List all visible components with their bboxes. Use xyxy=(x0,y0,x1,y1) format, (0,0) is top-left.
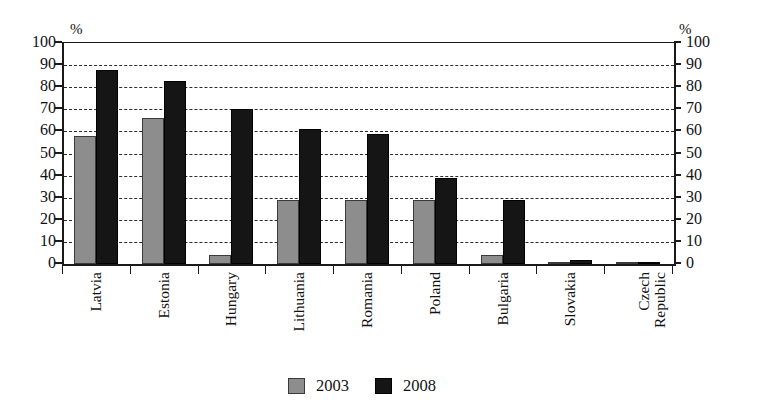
legend-label-2003: 2003 xyxy=(316,378,349,395)
category-tick-1 xyxy=(198,265,199,274)
ytick-mark-left-80 xyxy=(55,85,62,87)
ytick-label-right-50: 50 xyxy=(686,145,702,161)
ytick-label-left-100: 100 xyxy=(32,34,56,50)
ytick-mark-left-70 xyxy=(55,107,62,109)
category-tick-origin xyxy=(62,265,63,274)
ytick-mark-right-20 xyxy=(674,218,681,220)
ytick-mark-left-0 xyxy=(55,262,62,264)
ytick-label-right-30: 30 xyxy=(686,189,702,205)
ytick-mark-right-70 xyxy=(674,107,681,109)
category-label-line: Czech xyxy=(636,272,652,328)
bar-lithuania-2003 xyxy=(277,200,299,264)
ytick-mark-right-40 xyxy=(674,174,681,176)
category-tick-6 xyxy=(536,265,537,274)
ytick-label-right-40: 40 xyxy=(686,167,702,183)
bar-czech-republic-2003 xyxy=(616,262,638,264)
category-tick-2 xyxy=(265,265,266,274)
category-label-hungary: Hungary xyxy=(223,272,239,326)
bar-latvia-2003 xyxy=(74,136,96,264)
category-label-lithuania: Lithuania xyxy=(291,272,307,331)
bar-bulgaria-2003 xyxy=(481,255,503,264)
category-tick-0 xyxy=(130,265,131,274)
legend-swatch-2008-icon xyxy=(375,378,392,394)
ytick-label-right-10: 10 xyxy=(686,233,702,249)
bar-latvia-2008 xyxy=(96,70,118,264)
category-label-line: Slovakia xyxy=(562,272,578,326)
category-tick-8 xyxy=(672,265,673,274)
ytick-mark-left-30 xyxy=(55,196,62,198)
plot-area xyxy=(62,42,676,266)
ytick-mark-right-100 xyxy=(674,41,681,43)
ytick-mark-left-100 xyxy=(55,41,62,43)
ytick-label-left-80: 80 xyxy=(40,78,56,94)
category-label-bulgaria: Bulgaria xyxy=(495,272,511,325)
category-label-line: Lithuania xyxy=(291,272,307,331)
bar-chart: % % 001010202030304040505060607070808090… xyxy=(0,0,776,415)
bar-bulgaria-2008 xyxy=(503,200,525,264)
ytick-mark-left-50 xyxy=(55,152,62,154)
ytick-mark-right-90 xyxy=(674,63,681,65)
gridline-70 xyxy=(64,109,674,110)
bar-slovakia-2008 xyxy=(570,260,592,264)
category-label-line: Latvia xyxy=(88,272,104,312)
gridline-80 xyxy=(64,87,674,88)
gridline-90 xyxy=(64,65,674,66)
legend-label-2008: 2008 xyxy=(403,378,436,395)
ytick-label-left-20: 20 xyxy=(40,211,56,227)
bar-hungary-2008 xyxy=(231,109,253,264)
ytick-mark-right-60 xyxy=(674,129,681,131)
category-label-romania: Romania xyxy=(359,272,375,328)
category-label-line: Estonia xyxy=(156,272,172,319)
ytick-label-left-90: 90 xyxy=(40,56,56,72)
ytick-label-right-60: 60 xyxy=(686,122,702,138)
legend-swatch-2003-icon xyxy=(288,378,305,394)
bar-poland-2003 xyxy=(413,200,435,264)
category-label-estonia: Estonia xyxy=(156,272,172,319)
category-label-czech-republic: CzechRepublic xyxy=(636,272,669,328)
category-label-line: Bulgaria xyxy=(495,272,511,325)
ytick-label-left-10: 10 xyxy=(40,233,56,249)
category-label-line: Romania xyxy=(359,272,375,328)
bar-czech-republic-2008 xyxy=(638,262,660,264)
ytick-label-right-20: 20 xyxy=(686,211,702,227)
ytick-mark-left-40 xyxy=(55,174,62,176)
legend-entry-2008: 2008 xyxy=(375,378,436,395)
ytick-label-left-60: 60 xyxy=(40,122,56,138)
ytick-label-left-30: 30 xyxy=(40,189,56,205)
category-label-line: Poland xyxy=(427,272,443,315)
category-label-slovakia: Slovakia xyxy=(562,272,578,326)
ytick-label-left-0: 0 xyxy=(48,255,56,271)
bar-romania-2003 xyxy=(345,200,367,264)
category-label-line: Hungary xyxy=(223,272,239,326)
ytick-label-right-0: 0 xyxy=(686,255,694,271)
ytick-mark-right-80 xyxy=(674,85,681,87)
ytick-label-left-50: 50 xyxy=(40,145,56,161)
bar-estonia-2008 xyxy=(164,81,186,264)
category-tick-5 xyxy=(469,265,470,274)
ytick-mark-right-50 xyxy=(674,152,681,154)
ytick-label-right-70: 70 xyxy=(686,100,702,116)
ytick-mark-left-10 xyxy=(55,240,62,242)
category-tick-4 xyxy=(401,265,402,274)
ytick-label-left-70: 70 xyxy=(40,100,56,116)
ytick-mark-left-20 xyxy=(55,218,62,220)
category-tick-7 xyxy=(604,265,605,274)
ytick-mark-left-90 xyxy=(55,63,62,65)
left-axis-unit-label: % xyxy=(70,22,83,37)
ytick-label-right-90: 90 xyxy=(686,56,702,72)
ytick-mark-left-60 xyxy=(55,129,62,131)
chart-legend: 2003 2008 xyxy=(288,378,436,395)
bar-romania-2008 xyxy=(367,134,389,264)
ytick-label-right-80: 80 xyxy=(686,78,702,94)
bar-poland-2008 xyxy=(435,178,457,264)
bar-slovakia-2003 xyxy=(548,262,570,264)
bar-estonia-2003 xyxy=(142,118,164,264)
ytick-mark-right-0 xyxy=(674,262,681,264)
ytick-mark-right-10 xyxy=(674,240,681,242)
category-label-line: Republic xyxy=(652,272,668,328)
category-label-latvia: Latvia xyxy=(88,272,104,312)
legend-entry-2003: 2003 xyxy=(288,378,349,395)
bar-lithuania-2008 xyxy=(299,129,321,264)
ytick-mark-right-30 xyxy=(674,196,681,198)
bar-hungary-2003 xyxy=(209,255,231,264)
